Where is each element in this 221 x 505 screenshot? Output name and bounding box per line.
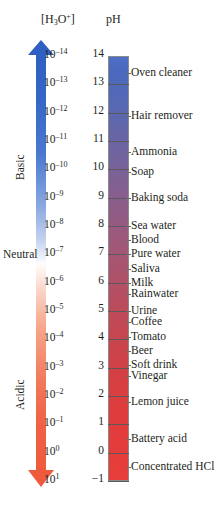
ph-value: 11 [86, 133, 104, 145]
concentration-exponent: –12 [56, 104, 68, 113]
concentration-exponent: –5 [56, 302, 64, 311]
concentration-exponent: –8 [56, 217, 64, 226]
substance-label: Soap [131, 166, 154, 178]
concentration-base: 10 [44, 416, 56, 428]
substance-label: Oven cleaner [131, 67, 192, 79]
ph-value: 4 [86, 331, 104, 343]
concentration-exponent: 1 [56, 472, 60, 481]
ph-value: −1 [86, 473, 104, 485]
concentration-exponent: –6 [56, 274, 64, 283]
concentration-base: 10 [44, 48, 56, 60]
ph-value: 13 [86, 76, 104, 88]
substance-label: Rainwater [131, 288, 178, 300]
concentration-exponent: –2 [56, 387, 64, 396]
substance-label: Lemon juice [131, 396, 189, 408]
ph-value: 10 [86, 161, 104, 173]
substance-label: Battery acid [131, 433, 187, 445]
concentration-exponent: –9 [56, 189, 64, 198]
ph-value: 0 [86, 445, 104, 457]
ph-value: 2 [86, 388, 104, 400]
concentration-base: 10 [44, 161, 56, 173]
concentration-exponent: 0 [56, 444, 60, 453]
substance-label: Concentrated HCl [131, 461, 214, 473]
concentration-exponent: –1 [56, 415, 64, 424]
ph-value: 1 [86, 416, 104, 428]
ph-value: 7 [86, 246, 104, 258]
concentration-exponent: –14 [56, 47, 68, 56]
concentration-base: 10 [44, 76, 56, 88]
concentration-base: 10 [44, 445, 56, 457]
concentration-base: 10 [44, 303, 56, 315]
substance-label: Blood [131, 234, 159, 246]
ph-value: 8 [86, 218, 104, 230]
concentration-base: 10 [44, 190, 56, 202]
concentration-exponent: –4 [56, 330, 64, 339]
substance-label: Ammonia [131, 146, 177, 158]
ph-value: 6 [86, 275, 104, 287]
concentration-exponent: –10 [56, 160, 68, 169]
concentration-base: 10 [44, 331, 56, 343]
concentration-base: 10 [44, 388, 56, 400]
substance-label: Hair remover [131, 110, 193, 122]
concentration-base: 10 [44, 218, 56, 230]
substance-label: Baking soda [131, 192, 188, 204]
concentration-base: 10 [44, 473, 56, 485]
concentration-base: 10 [44, 275, 56, 287]
concentration-exponent: –3 [56, 359, 64, 368]
concentration-base: 10 [44, 133, 56, 145]
ph-value: 3 [86, 360, 104, 372]
concentration-exponent: –11 [56, 132, 68, 141]
concentration-exponent: –7 [56, 245, 64, 254]
ph-scale-figure: [H3O+] pH Basic Neutral Acidic 10–141410… [0, 0, 221, 505]
ph-value: 9 [86, 190, 104, 202]
substance-label: Vinegar [131, 370, 167, 382]
concentration-base: 10 [44, 105, 56, 117]
substance-label: Beer [131, 345, 153, 357]
substance-label: Tomato [131, 331, 166, 343]
concentration-exponent: –13 [56, 75, 68, 84]
ph-value: 14 [86, 48, 104, 60]
substance-label: Sea water [131, 220, 176, 232]
substance-label: Coffee [131, 316, 162, 328]
substance-label: Pure water [131, 248, 181, 260]
ph-value: 12 [86, 105, 104, 117]
concentration-base: 10 [44, 360, 56, 372]
substance-label: Saliva [131, 263, 160, 275]
concentration-base: 10 [44, 246, 56, 258]
ph-value: 5 [86, 303, 104, 315]
